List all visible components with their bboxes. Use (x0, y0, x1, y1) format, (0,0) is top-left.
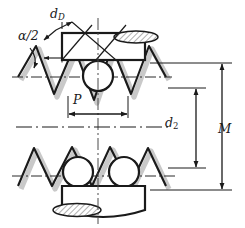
label-wire-diameter-base: d (50, 6, 58, 21)
dd-leader-left (44, 30, 56, 40)
lower-anvil (53, 186, 145, 217)
diagram-canvas: α/2 dD P d2 M (0, 0, 245, 228)
label-pitch-diameter-sub: 2 (173, 121, 178, 131)
label-measurement: M (218, 122, 231, 135)
lower-thread-profile (12, 147, 178, 189)
label-wire-diameter: dD (50, 8, 65, 22)
label-pitch-diameter-base: d (165, 115, 173, 130)
label-half-angle: α/2 (18, 30, 39, 43)
dd-leader-right (56, 22, 72, 30)
label-wire-diameter-sub: D (58, 12, 65, 22)
label-pitch-diameter: d2 (165, 117, 178, 131)
lower-anvil-section-ellipse (53, 204, 101, 217)
upper-anvil-section-ellipse (114, 31, 158, 43)
lower-measuring-wire-right (109, 157, 139, 187)
label-pitch: P (73, 94, 81, 107)
lower-measuring-wire-left (63, 157, 93, 187)
